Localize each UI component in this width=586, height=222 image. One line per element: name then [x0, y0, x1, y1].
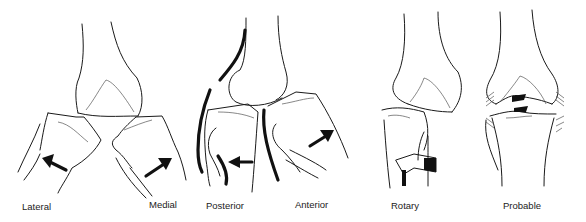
label-anterior: Anterior: [295, 199, 328, 210]
probable-drawing: [486, 10, 564, 186]
rotary-drawing: [382, 12, 461, 188]
label-lateral: Lateral: [22, 201, 51, 212]
lateral-medial-drawing: [18, 22, 186, 198]
posterior-anterior-drawing: [198, 16, 348, 192]
label-posterior: Posterior: [206, 200, 244, 211]
label-rotary: Rotary: [391, 200, 419, 211]
label-medial: Medial: [149, 199, 177, 210]
knee-dislocation-illustration: [0, 0, 586, 222]
label-probable: Probable: [503, 200, 541, 211]
